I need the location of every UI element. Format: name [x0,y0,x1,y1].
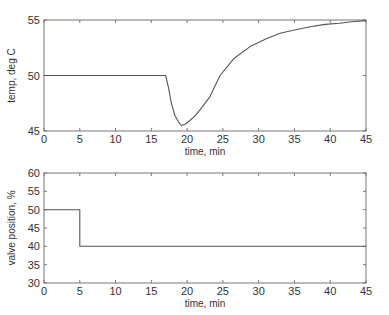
x-tick-label: 5 [77,133,83,145]
x-tick-label: 25 [217,133,229,145]
y-tick-label: 35 [28,259,40,271]
x-tick-label: 40 [324,133,336,145]
x-tick-label: 15 [145,133,157,145]
x-tick-label: 10 [109,285,121,297]
y-tick-label: 50 [28,204,40,216]
x-tick-label: 20 [181,133,193,145]
y-tick-label: 55 [28,14,40,26]
x-tick-label: 0 [41,133,47,145]
x-tick-label: 0 [41,285,47,297]
y-axis-label: valve position, % [6,190,17,265]
valve-position-plot: 05101520253035404530354045505560time, mi… [6,167,372,309]
x-tick-label: 10 [109,133,121,145]
y-tick-label: 45 [28,222,40,234]
x-tick-label: 30 [253,133,265,145]
x-tick-label: 5 [77,285,83,297]
x-axis-label: time, min [185,146,226,157]
x-tick-label: 45 [360,133,372,145]
x-tick-label: 40 [324,285,336,297]
y-tick-label: 40 [28,240,40,252]
y-tick-label: 55 [28,185,40,197]
data-line [44,21,366,126]
x-tick-label: 30 [253,285,265,297]
y-tick-label: 45 [28,125,40,137]
figure: 051015202530354045455055time, mintemp, d… [0,0,389,315]
y-tick-label: 50 [28,70,40,82]
x-tick-label: 25 [217,285,229,297]
y-tick-label: 30 [28,277,40,289]
y-axis-label: temp, deg C [6,48,17,102]
x-tick-label: 35 [288,133,300,145]
data-line [44,210,366,247]
x-tick-label: 20 [181,285,193,297]
y-tick-label: 60 [28,167,40,179]
axes-frame [44,173,366,283]
x-tick-label: 35 [288,285,300,297]
x-tick-label: 15 [145,285,157,297]
x-tick-label: 45 [360,285,372,297]
x-axis-label: time, min [185,298,226,309]
temperature-plot: 051015202530354045455055time, mintemp, d… [6,14,372,157]
